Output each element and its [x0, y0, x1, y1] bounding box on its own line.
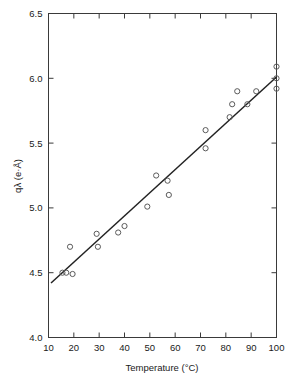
x-tick-label: 50 [145, 342, 156, 353]
y-tick-label: 4.0 [29, 332, 42, 343]
y-tick-label: 5.0 [29, 202, 42, 213]
scatter-plot-figure: 102030405060708090100 4.04.55.05.56.06.5… [0, 0, 297, 386]
y-tick-label: 4.5 [29, 267, 42, 278]
y-tick-label: 6.5 [29, 8, 42, 19]
y-axis-title: qλ (e·Å) [12, 159, 23, 193]
x-tick-label: 60 [170, 342, 181, 353]
x-tick-label: 80 [221, 342, 232, 353]
x-tick-label: 30 [94, 342, 105, 353]
y-tick-label: 6.0 [29, 73, 42, 84]
x-tick-label: 40 [119, 342, 130, 353]
x-tick-label: 100 [269, 342, 285, 353]
x-axis-title: Temperature (°C) [126, 362, 199, 373]
plot-canvas: 102030405060708090100 4.04.55.05.56.06.5… [0, 0, 297, 386]
x-tick-label: 20 [69, 342, 80, 353]
x-tick-label: 70 [195, 342, 206, 353]
y-tick-label: 5.5 [29, 138, 42, 149]
x-tick-label: 10 [43, 342, 54, 353]
x-tick-label: 90 [246, 342, 257, 353]
